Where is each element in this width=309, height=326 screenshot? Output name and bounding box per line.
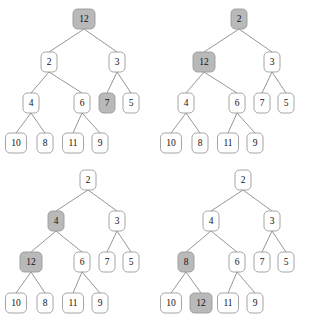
node-box[interactable] [254,252,270,272]
node-box-highlighted[interactable] [99,93,115,113]
tree-node[interactable]: 2 [235,170,251,190]
node-box[interactable] [229,252,245,272]
tree-edge [228,272,237,293]
tree-edge [243,190,272,211]
tree-edge [73,113,82,133]
node-box[interactable] [74,252,90,272]
tree-node[interactable]: 10 [161,293,182,313]
node-box[interactable] [123,252,139,272]
node-box[interactable] [218,293,239,313]
tree-node[interactable]: 11 [218,293,239,313]
node-box[interactable] [278,252,294,272]
tree-node[interactable]: 7 [99,252,115,272]
tree-node[interactable]: 11 [218,133,239,153]
tree-node[interactable]: 10 [6,133,27,153]
tree-node[interactable]: 9 [247,133,263,153]
node-box[interactable] [203,211,219,231]
node-box[interactable] [92,133,108,153]
node-box[interactable] [23,93,39,113]
tree-edges [171,29,286,133]
tree-node[interactable]: 12 [193,52,215,72]
tree-edge [272,231,286,252]
node-box[interactable] [80,170,96,190]
tree-node[interactable]: 2 [231,9,247,29]
tree-node[interactable]: 9 [92,293,108,313]
node-box-highlighted[interactable] [190,293,212,313]
node-box[interactable] [247,133,263,153]
tree-node[interactable]: 11 [63,293,84,313]
tree-node[interactable]: 4 [178,93,194,113]
tree-node[interactable]: 8 [37,293,53,313]
tree-node[interactable]: 8 [178,252,194,272]
tree-node[interactable]: 3 [109,211,125,231]
node-box-highlighted[interactable] [20,252,42,272]
tree-node[interactable]: 5 [123,93,139,113]
node-box[interactable] [235,170,251,190]
node-box[interactable] [92,293,108,313]
tree-edge [107,72,117,93]
tree-node[interactable]: 6 [229,252,245,272]
node-box[interactable] [178,93,194,113]
tree-node[interactable]: 3 [264,52,280,72]
node-box[interactable] [99,252,115,272]
node-box[interactable] [109,211,125,231]
tree-node[interactable]: 9 [92,133,108,153]
tree-edge [171,113,186,133]
node-box[interactable] [264,211,280,231]
tree-node[interactable]: 10 [6,293,27,313]
node-box[interactable] [278,93,294,113]
tree-node[interactable]: 4 [23,93,39,113]
tree-node[interactable]: 9 [247,293,263,313]
node-box[interactable] [254,93,270,113]
node-box[interactable] [63,133,84,153]
node-box[interactable] [6,133,27,153]
node-box[interactable] [161,293,182,313]
tree-node[interactable]: 11 [63,133,84,153]
node-box[interactable] [37,293,53,313]
tree-node[interactable]: 4 [48,211,64,231]
tree-node[interactable]: 2 [80,170,96,190]
tree-node[interactable]: 8 [37,133,53,153]
tree-node[interactable]: 12 [190,293,212,313]
tree-node[interactable]: 7 [254,93,270,113]
node-box[interactable] [74,93,90,113]
tree-node[interactable]: 7 [99,93,115,113]
tree-node[interactable]: 12 [73,9,95,29]
tree-node[interactable]: 6 [229,93,245,113]
tree-node[interactable]: 8 [192,133,208,153]
node-box[interactable] [123,93,139,113]
node-box[interactable] [37,133,53,153]
node-box-highlighted[interactable] [193,52,215,72]
node-box[interactable] [63,293,84,313]
tree-edge [228,113,237,133]
node-box-highlighted[interactable] [231,9,247,29]
tree-node[interactable]: 2 [41,52,57,72]
node-box[interactable] [192,133,208,153]
tree-node[interactable]: 6 [74,93,90,113]
node-box[interactable] [41,52,57,72]
tree-node[interactable]: 12 [20,252,42,272]
node-box[interactable] [109,52,125,72]
tree-node[interactable]: 6 [74,252,90,272]
tree-edge [262,72,272,93]
tree-node[interactable]: 10 [161,133,182,153]
node-box[interactable] [161,133,182,153]
tree-node[interactable]: 4 [203,211,219,231]
node-box-highlighted[interactable] [178,252,194,272]
tree-node[interactable]: 3 [264,211,280,231]
tree-node[interactable]: 5 [278,252,294,272]
tree-edge [107,231,117,252]
tree-node[interactable]: 7 [254,252,270,272]
node-box[interactable] [247,293,263,313]
node-box-highlighted[interactable] [48,211,64,231]
node-box[interactable] [218,133,239,153]
node-box[interactable] [264,52,280,72]
tree-node[interactable]: 5 [123,252,139,272]
tree-node[interactable]: 3 [109,52,125,72]
node-box[interactable] [229,93,245,113]
node-box-highlighted[interactable] [73,9,95,29]
node-box[interactable] [6,293,27,313]
tree-edge [49,29,84,52]
tree-edge [31,113,45,133]
tree-node[interactable]: 5 [278,93,294,113]
